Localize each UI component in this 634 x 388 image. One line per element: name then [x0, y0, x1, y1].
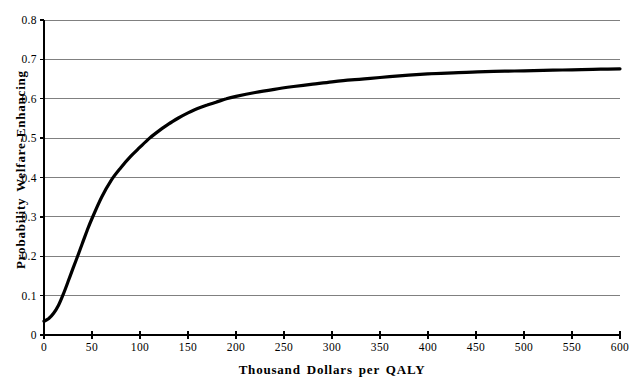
x-tick-label: 150 — [179, 341, 197, 353]
x-tick-label: 300 — [323, 341, 341, 353]
x-tick-label: 0 — [41, 341, 47, 353]
x-tick-label: 350 — [371, 341, 389, 353]
x-tick-label: 400 — [419, 341, 437, 353]
x-tick-label: 500 — [515, 341, 533, 353]
x-tick-label: 200 — [227, 341, 245, 353]
y-tick-label: 0.7 — [21, 53, 37, 65]
x-tick-label: 50 — [86, 341, 98, 353]
y-tick-label: 0 — [31, 329, 37, 341]
x-tick-label: 550 — [563, 341, 581, 353]
chart-figure: 00.10.20.30.40.50.60.70.8050100150200250… — [0, 0, 634, 388]
y-tick-label: 0.8 — [21, 14, 37, 26]
x-tick-label: 100 — [131, 341, 149, 353]
x-tick-label: 250 — [275, 341, 293, 353]
y-axis-title: Probability Welfare-Enhancing — [13, 89, 29, 269]
line-chart-plot-area: 00.10.20.30.40.50.60.70.8050100150200250… — [0, 0, 634, 388]
x-axis-title: Thousand Dollars per QALY — [0, 362, 634, 378]
y-tick-label: 0.1 — [21, 290, 37, 302]
x-tick-label: 600 — [611, 341, 629, 353]
probability-curve — [44, 69, 620, 321]
x-tick-label: 450 — [467, 341, 485, 353]
